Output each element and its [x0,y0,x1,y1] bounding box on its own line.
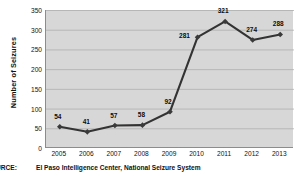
y-tick-label: 50 [20,125,42,132]
y-axis-title: Number of Seizures [9,13,18,133]
data-point-label: 54 [54,112,61,119]
data-point-marker [112,123,118,129]
data-point-label: 57 [110,111,117,118]
data-point-label: 92 [164,97,171,104]
y-tick-label: 350 [20,7,42,14]
data-point-marker [277,32,283,38]
data-point-marker [85,129,91,135]
x-tick-label: 2013 [262,150,296,157]
source-label: URCE: [0,164,17,171]
source-footer: URCE: El Paso Intelligence Center, Natio… [0,163,301,175]
y-tick-label: 200 [20,66,42,73]
series-markers [57,19,283,135]
y-tick-label: 100 [20,105,42,112]
x-axis-tick-labels: 200520062007200820092010201120122013 [45,150,293,162]
y-axis-tick-labels: 050100150200250300350 [20,0,42,163]
line-chart: Number of Seizures 050100150200250300350… [0,0,301,163]
y-tick-label: 0 [20,145,42,152]
data-point-label: 274 [246,25,257,32]
source-text: El Paso Intelligence Center, National Se… [36,164,201,171]
data-point-label: 281 [179,32,190,39]
data-point-label: 58 [138,111,145,118]
series-line [60,21,280,131]
data-point-label: 288 [273,20,284,27]
y-tick-label: 300 [20,26,42,33]
y-tick-label: 150 [20,85,42,92]
data-point-label: 321 [218,7,229,14]
data-point-label: 41 [83,117,90,124]
y-tick-label: 250 [20,46,42,53]
series-polyline [60,21,280,131]
chart-figure: Number of Seizures 050100150200250300350… [0,0,301,175]
